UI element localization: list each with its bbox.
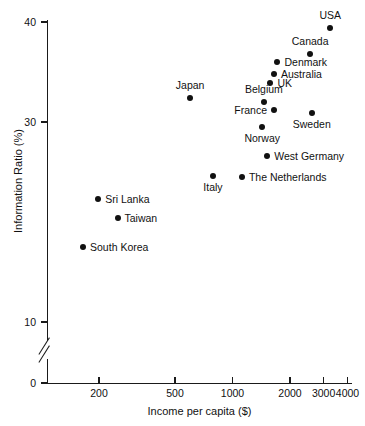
y-tick-40 — [41, 21, 47, 22]
y-tick-label-40: 40 — [8, 17, 36, 27]
y-tick-10 — [41, 321, 47, 322]
data-point[interactable] — [259, 124, 265, 130]
data-point[interactable] — [327, 25, 333, 31]
data-point[interactable] — [80, 244, 86, 250]
data-point-label: Italy — [203, 182, 222, 193]
x-tick-label-3000: 3000 — [312, 388, 335, 399]
data-point-label: USA — [319, 10, 341, 21]
x-tick-4000 — [347, 377, 348, 383]
y-tick-label-0: 0 — [8, 378, 36, 388]
x-tick-3000 — [323, 377, 324, 383]
data-point[interactable] — [115, 215, 121, 221]
data-point-label: West Germany — [274, 151, 344, 162]
y-axis-break-icon — [38, 338, 60, 364]
data-point[interactable] — [271, 71, 277, 77]
x-tick-label-500: 500 — [166, 388, 184, 399]
data-point-label: Sweden — [293, 119, 331, 130]
y-tick-0 — [41, 382, 47, 383]
x-tick-label-200: 200 — [90, 388, 108, 399]
x-tick-1000 — [232, 377, 233, 383]
data-point-label: Canada — [292, 36, 329, 47]
data-point-label: Japan — [176, 80, 205, 91]
x-tick-label-1000: 1000 — [221, 388, 244, 399]
data-point[interactable] — [187, 95, 193, 101]
x-tick-label-2000: 2000 — [278, 388, 301, 399]
data-point-label: Denmark — [284, 57, 327, 68]
x-tick-2000 — [289, 377, 290, 383]
data-point-label: France — [234, 105, 267, 116]
y-axis-line — [47, 20, 48, 384]
y-axis-title: Information Ratio (%) — [12, 111, 24, 251]
data-point-label: South Korea — [90, 242, 148, 253]
data-point-label: Norway — [244, 133, 280, 144]
data-point-label: The Netherlands — [249, 172, 327, 183]
scatter-chart-figure: 0103040 2005001000200030004000 USACanada… — [0, 0, 365, 426]
x-tick-label-4000: 4000 — [336, 388, 359, 399]
data-point[interactable] — [210, 173, 216, 179]
data-point[interactable] — [95, 196, 101, 202]
x-tick-500 — [174, 377, 175, 383]
x-axis-title: Income per capita ($) — [47, 405, 352, 417]
data-point-label: Sri Lanka — [105, 194, 149, 205]
plot-area: 0103040 2005001000200030004000 USACanada… — [0, 0, 365, 426]
data-point[interactable] — [309, 110, 315, 116]
y-tick-label-10: 10 — [8, 317, 36, 327]
data-point-label: Belgium — [245, 84, 283, 95]
data-point-label: Taiwan — [125, 213, 158, 224]
data-point[interactable] — [274, 59, 280, 65]
x-axis-line — [47, 383, 352, 384]
y-tick-30 — [41, 121, 47, 122]
data-point[interactable] — [271, 107, 277, 113]
data-point[interactable] — [239, 174, 245, 180]
x-tick-200 — [98, 377, 99, 383]
data-point[interactable] — [264, 153, 270, 159]
